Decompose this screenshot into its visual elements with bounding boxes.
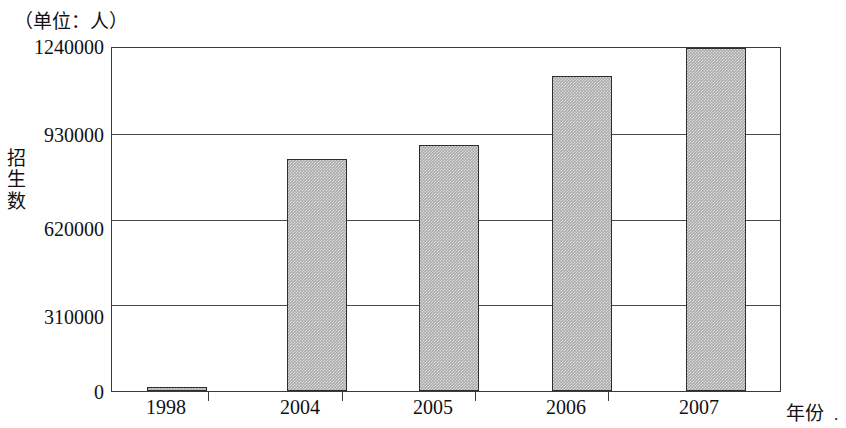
x-axis-title: 年份.: [786, 398, 838, 425]
y-axis-title-char-1: 生: [4, 169, 28, 190]
bar-2006: [552, 76, 612, 391]
bar-2004: [287, 159, 347, 391]
x-tick-label-2007: 2007: [649, 396, 749, 419]
bar-2007: [686, 48, 746, 391]
y-axis-title-char-2: 数: [4, 191, 28, 212]
x-tick-label-2004: 2004: [250, 396, 350, 419]
y-tick-label-1240000: 1240000: [0, 36, 104, 59]
gridline-930000: [112, 134, 780, 135]
y-tick-label-620000: 620000: [0, 218, 104, 241]
x-axis-title-text: 年份: [786, 403, 824, 424]
y-axis-title-char-0: 招: [4, 148, 28, 169]
recruitment-bar-chart: （单位：人） 招 生 数 1240000 930000 620000 31000…: [0, 0, 846, 428]
x-tick-label-2006: 2006: [516, 396, 616, 419]
y-tick-label-0: 0: [0, 381, 104, 404]
unit-caption: （单位：人）: [14, 6, 128, 33]
y-tick-label-930000: 930000: [0, 124, 104, 147]
plot-area: [111, 47, 781, 392]
y-axis-title: 招 生 数: [4, 148, 28, 212]
y-tick-label-310000: 310000: [0, 306, 104, 329]
x-tick-label-2005: 2005: [383, 396, 483, 419]
x-axis-title-period: .: [834, 405, 838, 424]
bar-2005: [419, 145, 479, 391]
bar-1998: [147, 387, 207, 391]
x-tick-label-1998: 1998: [116, 396, 216, 419]
